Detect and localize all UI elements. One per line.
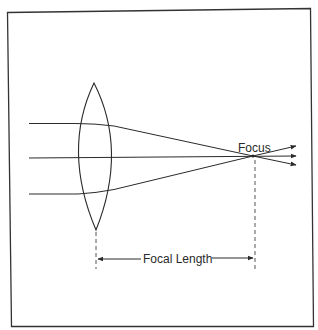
- light-rays: [29, 124, 296, 195]
- focus-label: Focus: [238, 141, 271, 155]
- focal-length-label: Focal Length: [143, 252, 212, 266]
- convex-lens: [78, 83, 111, 230]
- bottom-ray: [29, 156, 296, 194]
- diagram-frame: [8, 9, 314, 327]
- lens-diagram: Focus Focal Length: [0, 0, 318, 330]
